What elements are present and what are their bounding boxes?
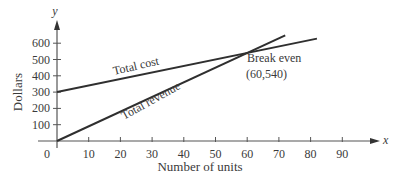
y-tick-label: 600	[32, 36, 50, 50]
x-axis-label: Number of units	[157, 159, 242, 174]
x-tick-label: 20	[114, 147, 126, 161]
x-tick-label: 70	[273, 147, 285, 161]
x-axis-arrow-icon	[370, 138, 380, 144]
x-tick-label: 30	[146, 147, 158, 161]
y-tick-label: 400	[32, 69, 50, 83]
break-even-point-label: (60,540)	[246, 67, 287, 81]
x-tick-label: 80	[305, 147, 317, 161]
break-even-chart: 102030405060708090100200300400500600 y x…	[0, 0, 395, 186]
total-cost-line	[57, 39, 317, 92]
y-tick-label: 500	[32, 53, 50, 67]
origin-label: 0	[44, 147, 50, 161]
x-tick-label: 60	[241, 147, 253, 161]
total-cost-label: Total cost	[112, 54, 161, 78]
y-axis-arrow-icon	[54, 20, 60, 30]
y-tick-label: 100	[32, 118, 50, 132]
axes	[38, 20, 380, 148]
y-tick-label: 200	[32, 101, 50, 115]
x-tick-label: 90	[336, 147, 348, 161]
x-axis-symbol: x	[382, 133, 389, 147]
y-axis-label: Dollars	[10, 73, 25, 111]
x-tick-label: 10	[83, 147, 95, 161]
total-revenue-label: Total revenue	[119, 79, 183, 123]
break-even-label: Break even	[247, 51, 301, 65]
y-tick-label: 300	[32, 85, 50, 99]
y-axis-symbol: y	[51, 4, 58, 18]
